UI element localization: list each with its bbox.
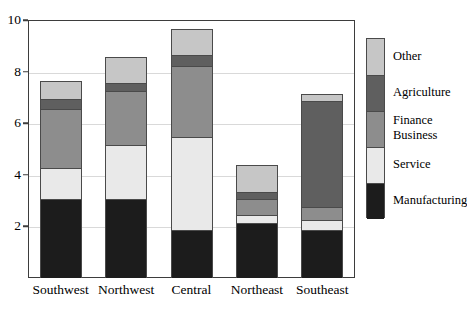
bar-segment[interactable]: [236, 199, 278, 214]
legend-entry-label: Manufacturing: [393, 193, 467, 208]
x-axis-label: Southeast: [290, 283, 355, 297]
bar-segment[interactable]: [236, 215, 278, 223]
bar-segment[interactable]: [236, 192, 278, 200]
y-tick-label: 2: [14, 220, 21, 234]
y-tick-label: 8: [14, 65, 21, 79]
stacked-bar-chart: 246810 SouthwestNorthwestCentralNortheas…: [0, 0, 467, 327]
legend-entry-label: Agriculture: [393, 85, 451, 100]
y-tick-label: 6: [14, 116, 21, 130]
bar-segment[interactable]: [236, 223, 278, 278]
bar-group[interactable]: [236, 20, 278, 278]
bar-segment[interactable]: [301, 230, 343, 278]
bar-segment[interactable]: [171, 137, 213, 230]
x-axis-label: Central: [159, 283, 224, 297]
y-axis: 246810: [0, 0, 28, 327]
x-axis-labels: SouthwestNorthwestCentralNortheastSouthe…: [28, 283, 355, 313]
bar-group[interactable]: [40, 20, 82, 278]
legend-color-swatch: [367, 75, 384, 111]
legend-color-swatch: [367, 147, 384, 183]
stacked-bar[interactable]: [171, 29, 213, 278]
bar-group[interactable]: [171, 20, 213, 278]
legend-entry-label: Other: [393, 49, 421, 64]
y-tick-label: 4: [14, 168, 21, 182]
bar-segment[interactable]: [301, 207, 343, 220]
bar-segment[interactable]: [40, 199, 82, 278]
bar-group[interactable]: [105, 20, 147, 278]
bar-segment[interactable]: [105, 199, 147, 278]
legend-entry-label: Service: [393, 157, 430, 172]
bar-segment[interactable]: [171, 230, 213, 278]
legend-color-swatch: [367, 39, 384, 75]
bar-segment[interactable]: [40, 168, 82, 199]
stacked-bar[interactable]: [40, 81, 82, 278]
bar-segment[interactable]: [105, 91, 147, 145]
bar-segment[interactable]: [40, 99, 82, 109]
x-axis-label: Northeast: [224, 283, 289, 297]
bar-group[interactable]: [301, 20, 343, 278]
bar-segment[interactable]: [105, 145, 147, 199]
bar-segment[interactable]: [105, 57, 147, 83]
bar-segment[interactable]: [171, 66, 213, 137]
legend-label-list: OtherAgricultureFinance BusinessServiceM…: [393, 38, 465, 218]
bar-segment[interactable]: [236, 165, 278, 192]
legend-color-swatch: [367, 183, 384, 219]
bars-layer: [28, 20, 355, 278]
stacked-bar[interactable]: [236, 165, 278, 278]
stacked-bar[interactable]: [105, 57, 147, 278]
bar-segment[interactable]: [40, 109, 82, 168]
legend-color-swatch: [367, 111, 384, 147]
y-tick-label: 10: [8, 13, 22, 27]
bar-segment[interactable]: [40, 81, 82, 99]
legend-swatch-bar: [366, 38, 385, 218]
x-axis-label: Southwest: [28, 283, 93, 297]
legend-entry-label: Finance Business: [393, 113, 437, 143]
bar-segment[interactable]: [301, 220, 343, 230]
bar-segment[interactable]: [171, 29, 213, 55]
bar-segment[interactable]: [301, 101, 343, 207]
legend: OtherAgricultureFinance BusinessServiceM…: [366, 38, 465, 218]
bar-segment[interactable]: [105, 83, 147, 91]
bar-segment[interactable]: [301, 94, 343, 102]
bar-segment[interactable]: [171, 55, 213, 67]
stacked-bar[interactable]: [301, 94, 343, 278]
x-axis-label: Northwest: [93, 283, 158, 297]
